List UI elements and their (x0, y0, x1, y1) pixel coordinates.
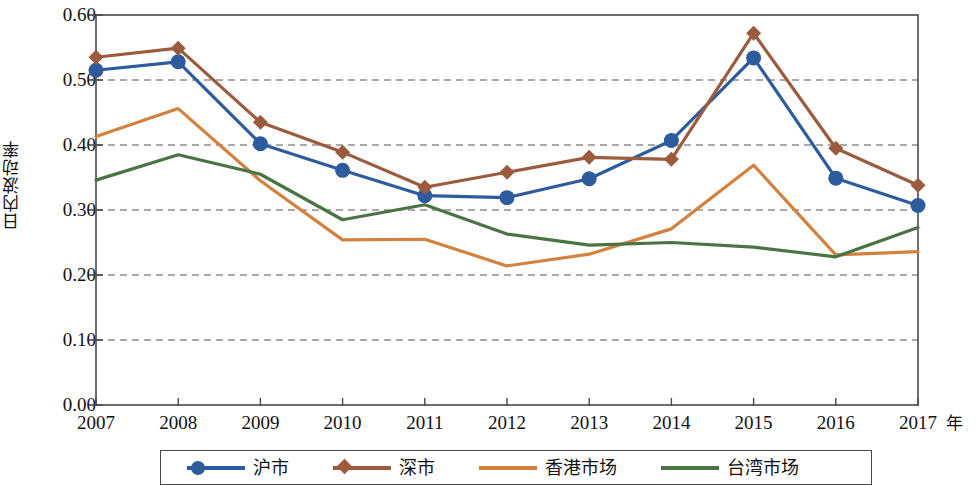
x-tick-label: 2009 (228, 412, 292, 434)
data-point (335, 145, 350, 160)
legend-line-icon (479, 466, 537, 470)
legend-label: 沪市 (253, 458, 289, 478)
data-point (664, 133, 679, 148)
data-point (746, 50, 761, 65)
legend-label: 香港市场 (545, 458, 617, 478)
legend-entry-3[interactable]: 香港市场 (479, 458, 617, 478)
legend-line-icon (661, 466, 719, 470)
line-chart: 日内波动率 0.000.100.200.300.400.500.60 年 沪市深… (0, 0, 977, 485)
x-tick-label: 2011 (393, 412, 457, 434)
legend-entry-1[interactable]: 沪市 (187, 458, 289, 478)
data-point (911, 178, 926, 193)
legend-swatch (187, 460, 245, 476)
data-point (335, 163, 350, 178)
legend-marker-diamond-icon (337, 458, 353, 474)
x-tick-label: 2012 (475, 412, 539, 434)
x-tick-label: 2017 (886, 412, 950, 434)
data-point (500, 165, 515, 180)
legend-label: 深市 (399, 458, 435, 478)
legend-entry-4[interactable]: 台湾市场 (661, 458, 799, 478)
data-point (582, 150, 597, 165)
legend-marker-circle-icon (191, 461, 205, 475)
x-tick-label: 2014 (639, 412, 703, 434)
data-point (89, 50, 104, 65)
x-tick-label: 2007 (64, 412, 128, 434)
series-line-3 (96, 109, 918, 266)
data-point (89, 63, 104, 78)
legend-swatch (333, 460, 391, 476)
x-tick-label: 2016 (804, 412, 868, 434)
x-tick-label: 2010 (311, 412, 375, 434)
chart-legend: 沪市深市香港市场台湾市场 (160, 450, 872, 485)
data-point (582, 171, 597, 186)
data-point (500, 190, 515, 205)
data-point (253, 136, 268, 151)
x-tick-label: 2013 (557, 412, 621, 434)
legend-label: 台湾市场 (727, 458, 799, 478)
x-tick-label: 2008 (146, 412, 210, 434)
data-point (828, 171, 843, 186)
legend-swatch (661, 460, 719, 476)
legend-swatch (479, 460, 537, 476)
data-point (911, 198, 926, 213)
legend-entry-2[interactable]: 深市 (333, 458, 435, 478)
x-tick-label: 2015 (722, 412, 786, 434)
data-point (171, 54, 186, 69)
